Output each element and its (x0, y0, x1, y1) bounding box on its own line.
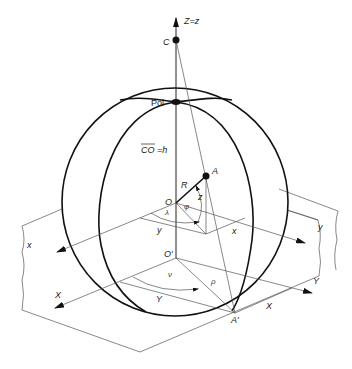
label-z-axis: Z=z (183, 16, 200, 26)
label-x-big-seg: X (265, 301, 273, 311)
label-y-seg: y (156, 225, 162, 235)
y-axis-big (176, 258, 312, 293)
label-x-small: x (26, 240, 32, 250)
upper-coordinate-system: x y y x λ (26, 176, 323, 252)
label-a: A (211, 166, 218, 176)
label-x-seg: x (231, 226, 237, 236)
projection-plane (22, 189, 338, 352)
label-o-prime: O' (164, 249, 173, 259)
label-x-big: X (54, 290, 62, 300)
sphere-outline (62, 88, 288, 316)
meridian-left (99, 102, 176, 312)
diagram-canvas: C Z=z Pol CO =h x y y x λ A R O φ z (0, 0, 352, 369)
label-y-big: Y (313, 276, 320, 286)
point-pole (172, 99, 181, 105)
svg-text:CO: CO (141, 145, 155, 155)
label-y-big-seg: Y (156, 294, 163, 304)
label-y-small: y (317, 222, 323, 232)
lower-coordinate-system: X Y Y X ν ρ (54, 258, 320, 313)
svg-text:=h: =h (157, 145, 167, 155)
label-a-prime: A' (230, 315, 239, 325)
label-c: C (163, 37, 170, 47)
label-o: O (165, 197, 172, 207)
label-lambda: λ (164, 208, 169, 217)
label-r: R (181, 180, 188, 190)
projection-diagram: C Z=z Pol CO =h x y y x λ A R O φ z (0, 0, 352, 369)
point-a (203, 173, 210, 180)
label-pole: Pol (151, 98, 164, 108)
label-co-h: CO =h (141, 144, 167, 155)
label-nu: ν (168, 270, 172, 279)
label-rho: ρ (210, 277, 216, 286)
label-z: z (197, 192, 203, 202)
label-phi: φ (184, 202, 189, 211)
point-c (173, 37, 180, 44)
